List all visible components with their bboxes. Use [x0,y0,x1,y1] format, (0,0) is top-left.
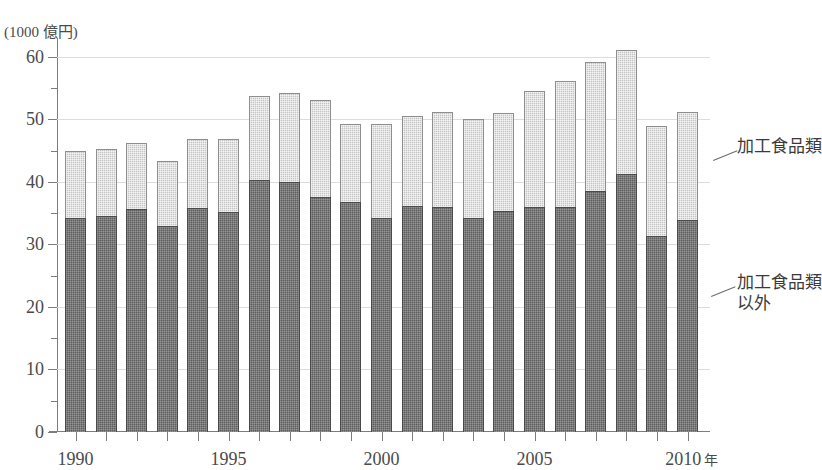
chart-title-cropped [255,0,555,6]
bar-2006 [555,81,576,432]
bar-segment-processed-foods [310,100,331,197]
bar-segment-processed-foods [524,91,545,207]
x-tick [688,432,689,441]
bar-2001 [402,116,423,432]
y-tick-minor [51,276,57,277]
x-tick-label-2000: 2000 [364,449,400,470]
bar-segment-non-processed-foods [126,209,147,432]
y-tick-major [48,57,57,58]
bar-segment-processed-foods [677,112,698,220]
callout-text-non-processed-foods-line1: 加工食品類 [737,272,822,293]
y-tick-major [48,432,57,433]
callout-text-non-processed-foods-line2: 以外 [737,293,822,314]
bar-2005 [524,91,545,432]
x-tick [473,432,474,441]
callout-leader-non-processed-foods [711,286,735,297]
x-tick [535,432,536,441]
x-tick [229,432,230,441]
bar-segment-processed-foods [616,50,637,174]
bar-segment-processed-foods [279,93,300,182]
bar-1998 [310,100,331,432]
gridline [57,119,710,120]
x-axis-unit-label: 年 [704,453,718,468]
bar-segment-processed-foods [402,116,423,206]
bar-1997 [279,93,300,432]
x-tick-label-text: 1995 [211,449,247,469]
bar-segment-processed-foods [463,119,484,218]
bar-segment-non-processed-foods [218,212,239,432]
x-tick [351,432,352,441]
callout-text-processed-foods: 加工食品類 [737,136,822,157]
bar-segment-non-processed-foods [279,182,300,432]
x-tick-label-1995: 1995 [211,449,247,470]
bar-1993 [157,161,178,432]
bar-segment-processed-foods [340,124,361,202]
bar-1999 [340,124,361,432]
y-tick-label: 50 [26,109,44,130]
x-tick [106,432,107,441]
bar-segment-processed-foods [371,124,392,217]
x-tick-label-text: 2005 [517,449,553,469]
y-tick-minor [51,151,57,152]
bar-segment-processed-foods [187,139,208,208]
x-tick-label-text: 2000 [364,449,400,469]
bar-1991 [96,149,117,432]
x-tick-label-2005: 2005 [517,449,553,470]
y-tick-label: 10 [26,359,44,380]
bar-segment-processed-foods [555,81,576,208]
bar-segment-non-processed-foods [646,236,667,432]
bar-segment-non-processed-foods [402,206,423,432]
x-tick [412,432,413,441]
bar-1995 [218,139,239,432]
bar-segment-processed-foods [126,143,147,209]
x-tick [657,432,658,441]
bar-1992 [126,143,147,432]
y-tick-minor [51,213,57,214]
x-tick [626,432,627,441]
bar-segment-processed-foods [249,96,270,180]
bar-segment-processed-foods [493,113,514,211]
bar-1994 [187,139,208,432]
y-tick-major [48,307,57,308]
y-tick-label: 60 [26,46,44,67]
plot-area: 0102030405060 19901995200020052010年 [57,38,710,432]
bar-2004 [493,113,514,432]
bar-2008 [616,50,637,432]
x-tick-label-1990: 1990 [58,449,94,470]
callout-label-non-processed-foods: 加工食品類 以外 [737,272,822,315]
x-tick-label-2010: 2010年 [665,449,718,470]
y-tick-label: 40 [26,171,44,192]
x-tick [137,432,138,441]
bar-segment-non-processed-foods [340,202,361,432]
bar-2010 [677,112,698,432]
x-tick [167,432,168,441]
bar-segment-non-processed-foods [493,211,514,432]
bar-2007 [585,62,606,432]
y-tick-label: 30 [26,234,44,255]
gridline [57,57,710,58]
bar-segment-non-processed-foods [65,218,86,433]
x-tick [198,432,199,441]
y-axis-line [57,38,58,432]
bar-segment-processed-foods [96,149,117,217]
bar-1990 [65,151,86,432]
bar-segment-non-processed-foods [524,207,545,432]
x-tick [259,432,260,441]
x-tick-label-text: 2010 [665,449,701,469]
x-tick [290,432,291,441]
x-tick [504,432,505,441]
callout-leader-processed-foods [713,150,737,161]
bar-segment-processed-foods [585,62,606,190]
y-tick-minor [51,338,57,339]
bar-2003 [463,119,484,432]
x-tick [565,432,566,441]
bar-segment-non-processed-foods [249,180,270,432]
callout-label-processed-foods: 加工食品類 [737,136,822,157]
x-tick [76,432,77,441]
y-tick-label: 20 [26,296,44,317]
bar-segment-processed-foods [646,126,667,237]
bar-segment-processed-foods [218,139,239,212]
bar-segment-processed-foods [65,151,86,218]
x-tick [443,432,444,441]
